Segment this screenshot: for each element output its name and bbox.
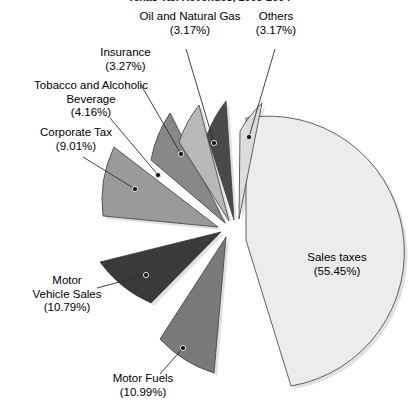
anchor-dot-others	[246, 134, 251, 139]
pie-label-tobacco-alcoholic-beverage: Tobacco and Alcoholic Beverage (4.16%)	[5, 79, 177, 120]
pie-label-tobacco-pct: (4.16%)	[5, 106, 177, 120]
anchor-dot-oil-and-natural-gas	[211, 140, 216, 145]
pie-label-others-name: Others	[238, 10, 314, 24]
anchor-dot-motor-vehicle-sales	[143, 272, 148, 277]
anchor-dot-motor-fuels	[180, 345, 185, 350]
pie-label-sales-taxes: Sales taxes (55.45%)	[283, 251, 391, 278]
pie-chart-graphic	[0, 0, 418, 410]
pie-label-corporate-tax-pct: (9.01%)	[2, 140, 150, 154]
anchor-dot-insurance	[178, 151, 183, 156]
pie-label-sales-taxes-name: Sales taxes	[283, 251, 391, 265]
anchor-dot-corporate-tax	[132, 186, 137, 191]
pie-label-tobacco-line2: Beverage	[5, 93, 177, 107]
pie-label-motor-fuels-name: Motor Fuels	[85, 372, 201, 386]
pie-label-motor-fuels: Motor Fuels (10.99%)	[85, 372, 201, 399]
pie-label-insurance: Insurance (3.27%)	[73, 46, 178, 73]
pie-label-tobacco-line1: Tobacco and Alcoholic	[5, 79, 177, 93]
pie-label-motor-vehicle-sales-line1: Motor	[8, 274, 126, 288]
pie-label-motor-vehicle-sales: Motor Vehicle Sales (10.79%)	[8, 274, 126, 315]
leader-line-motor-fuels	[160, 348, 183, 374]
pie-label-others: Others (3.17%)	[238, 10, 314, 37]
pie-label-motor-fuels-pct: (10.99%)	[85, 386, 201, 400]
pie-label-motor-vehicle-sales-pct: (10.79%)	[8, 301, 126, 315]
pie-label-insurance-pct: (3.27%)	[73, 60, 178, 74]
pie-chart-figure: Texas Tax Revenues, 2003-2004	[0, 0, 418, 410]
pie-label-motor-vehicle-sales-line2: Vehicle Sales	[8, 288, 126, 302]
pie-label-corporate-tax: Corporate Tax (9.01%)	[2, 126, 150, 153]
anchor-dot-tobacco	[155, 172, 160, 177]
pie-label-corporate-tax-name: Corporate Tax	[2, 126, 150, 140]
pie-label-others-pct: (3.17%)	[238, 24, 314, 38]
pie-label-insurance-name: Insurance	[73, 46, 178, 60]
pie-label-sales-taxes-pct: (55.45%)	[283, 265, 391, 279]
